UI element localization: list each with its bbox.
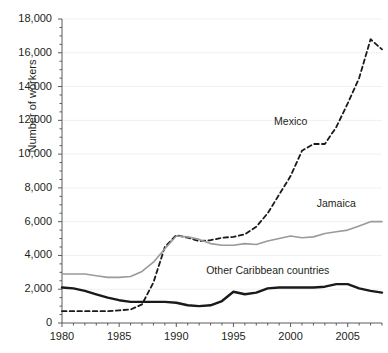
x-axis-tick-label: 2005 [324, 330, 372, 342]
chart-plot-area [0, 0, 388, 353]
x-axis-tick-label: 1980 [38, 330, 86, 342]
chart-root: Number of workers 02,0004,0006,0008,0001… [0, 0, 388, 353]
x-axis-tick-label: 1985 [95, 330, 143, 342]
x-axis-tick-label: 1990 [152, 330, 200, 342]
y-axis-tick-label: 8,000 [0, 182, 52, 193]
y-axis-tick-label: 16,000 [0, 47, 52, 58]
series-line-other-caribbean-countries [62, 284, 382, 306]
x-axis-tick-label: 2000 [267, 330, 315, 342]
y-axis-tick-label: 2,000 [0, 283, 52, 294]
y-axis-tick-label: 14,000 [0, 81, 52, 92]
x-axis-tick-label: 1995 [209, 330, 257, 342]
series-label-mexico: Mexico [274, 115, 307, 127]
y-axis-tick-label: 12,000 [0, 114, 52, 125]
y-axis-tick-label: 18,000 [0, 13, 52, 24]
y-axis-tick-label: 4,000 [0, 249, 52, 260]
series-label-jamaica: Jamaica [317, 197, 356, 209]
y-axis-tick-label: 6,000 [0, 216, 52, 227]
y-axis-tick-label: 0 [0, 317, 52, 328]
y-axis-tick-label: 10,000 [0, 148, 52, 159]
series-label-other-caribbean-countries: Other Caribbean countries [206, 264, 329, 276]
